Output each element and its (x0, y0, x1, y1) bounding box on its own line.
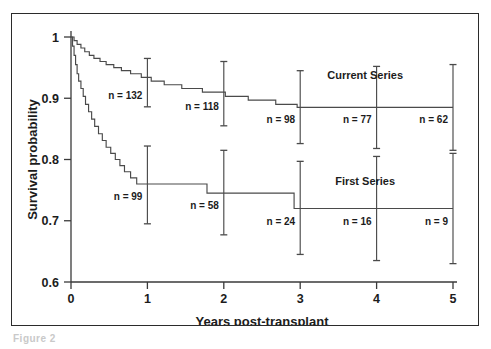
y-tick-label: 0.9 (42, 92, 59, 106)
series-label-first-series: First Series (335, 175, 395, 187)
x-axis-ticks: 012345 (68, 282, 457, 306)
figure-caption: Figure 2 (13, 333, 56, 344)
at-risk-label: n = 58 (190, 200, 219, 211)
x-axis-title: Years post-transplant (196, 314, 330, 325)
x-tick-label: 2 (220, 292, 227, 306)
figure-root: 012345 0.60.70.80.91 n = 132n = 118n = 9… (0, 0, 491, 349)
at-risk-label: n = 77 (343, 114, 372, 125)
at-risk-label: n = 9 (425, 216, 449, 227)
at-risk-label: n = 98 (267, 114, 296, 125)
x-tick-label: 3 (297, 292, 304, 306)
series-name-labels: Current SeriesFirst Series (327, 69, 403, 188)
figure-border-frame: 012345 0.60.70.80.91 n = 132n = 118n = 9… (11, 13, 479, 326)
survival-curves-group (71, 37, 453, 209)
at-risk-label: n = 62 (419, 114, 448, 125)
y-tick-label: 0.7 (42, 214, 59, 228)
at-risk-label: n = 24 (267, 216, 296, 227)
at-risk-label: n = 16 (343, 216, 372, 227)
x-tick-label: 0 (68, 292, 75, 306)
x-tick-label: 1 (144, 292, 151, 306)
y-tick-label: 0.8 (42, 153, 59, 167)
at-risk-label: n = 118 (185, 101, 219, 112)
x-tick-label: 5 (450, 292, 457, 306)
y-axis-ticks: 0.60.70.80.91 (42, 31, 71, 290)
survival-curve-chart: 012345 0.60.70.80.91 n = 132n = 118n = 9… (12, 14, 478, 325)
survival-curve-first-series (71, 37, 453, 209)
at-risk-label: n = 99 (114, 191, 143, 202)
at-risk-label: n = 132 (108, 90, 143, 101)
y-tick-label: 1 (52, 31, 59, 45)
at-risk-count-labels: n = 132n = 118n = 98n = 77n = 62n = 99n … (108, 90, 448, 227)
y-tick-label: 0.6 (42, 276, 59, 290)
x-tick-label: 4 (373, 292, 380, 306)
y-axis-title: Survival probability (25, 98, 40, 219)
series-label-current-series: Current Series (327, 69, 403, 81)
error-bars-group (144, 58, 457, 263)
